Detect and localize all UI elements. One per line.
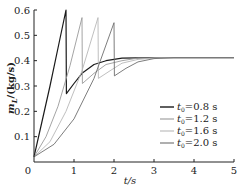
- legend-item: t0=0.8 s: [177, 101, 217, 113]
- line-chart: 0123450.10.20.30.40.50.6 t/s mL/(kg/s) t…: [0, 0, 242, 191]
- y-tick-label: 0.1: [14, 131, 30, 142]
- y-tick-label: 0.2: [14, 106, 30, 117]
- y-tick-label: 0.4: [14, 55, 30, 66]
- legend-item: t0=1.6 s: [177, 125, 217, 137]
- x-tick-label: 2: [111, 165, 117, 176]
- x-tick-label: 0: [25, 165, 31, 176]
- ticks: 0123450.10.20.30.40.50.6: [14, 5, 237, 177]
- x-tick-label: 3: [151, 165, 157, 176]
- y-tick-label: 0.6: [14, 5, 30, 16]
- y-tick-label: 0.3: [14, 81, 30, 92]
- legend: t0=0.8 st0=1.2 st0=1.6 st0=2.0 s: [160, 101, 217, 149]
- y-label-rest: /(kg/s): [5, 62, 16, 98]
- x-axis-label: t/s: [124, 175, 137, 186]
- legend-item: t0=2.0 s: [177, 137, 217, 149]
- x-tick-label: 4: [191, 165, 197, 176]
- y-label-main: m: [5, 103, 16, 114]
- y-tick-label: 0.5: [14, 30, 30, 41]
- legend-item: t0=1.2 s: [177, 113, 217, 125]
- x-tick-label: 1: [71, 165, 77, 176]
- series-line-1: [34, 18, 234, 157]
- x-tick-label: 5: [231, 165, 237, 176]
